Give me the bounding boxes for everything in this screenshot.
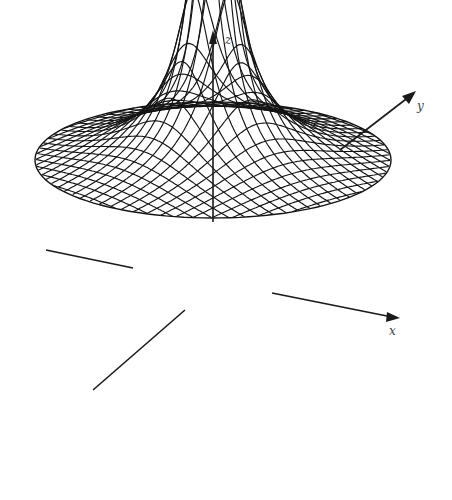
mesh-line (310, 112, 372, 135)
mesh-line (116, 0, 349, 197)
mesh-line (147, 139, 383, 213)
funnel-surface-figure: z y x (0, 0, 452, 500)
x-axis-label: x (389, 324, 396, 338)
y-axis-label: y (416, 99, 424, 113)
y-axis-arrowhead-icon (402, 91, 416, 104)
z-axis-label: z (224, 33, 232, 47)
x-axis-arrowhead-icon (386, 312, 400, 322)
mesh-line (122, 100, 375, 209)
y-axis-back (93, 310, 185, 390)
axes-back (46, 250, 185, 390)
x-axis-back (46, 250, 133, 268)
mesh-line (194, 160, 391, 217)
x-axis (272, 293, 392, 317)
mesh-line (42, 100, 278, 174)
mesh-line (54, 186, 116, 209)
mesh-line (64, 0, 327, 192)
mesh-line (292, 192, 362, 212)
